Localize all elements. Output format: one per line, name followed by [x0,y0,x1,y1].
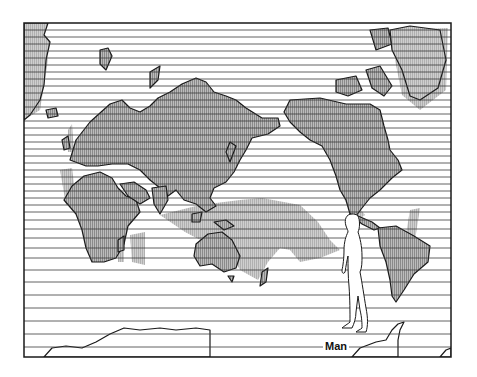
human-figure-icon [342,214,368,332]
antarctic-peninsula [352,322,404,357]
south-america [378,226,430,302]
tasmania [228,276,234,282]
india [152,186,168,214]
iceland [46,108,58,118]
antarctica [44,328,210,357]
novaya-zemlya [150,66,160,88]
ellesmere [370,28,392,50]
antarctica-east [440,348,451,357]
species-label: Man [323,340,349,352]
british-isles [62,136,70,150]
baffin [366,66,392,96]
borneo [192,212,202,222]
world-distribution-map [0,0,477,377]
landmasses [24,23,451,357]
